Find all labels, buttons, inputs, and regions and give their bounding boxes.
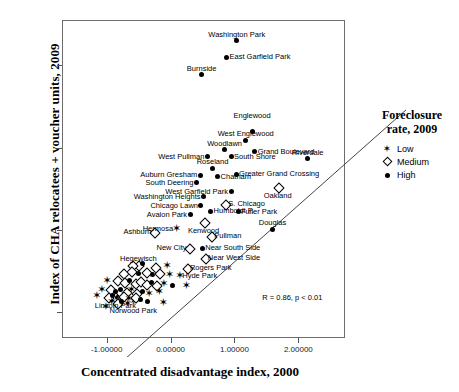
legend-title-line1: Foreclosure [366, 108, 458, 122]
legend-entry-low: ✶Low [380, 142, 458, 155]
data-point-high [145, 299, 150, 304]
data-point-high [200, 246, 205, 251]
y-axis-title: Index of CHA relocatees + voucher units,… [47, 24, 63, 324]
legend-items: ✶LowMediumHigh [366, 142, 458, 181]
point-label: Hegewisch [120, 254, 157, 263]
point-label: Chicago Lawn [150, 201, 198, 210]
data-point-low: ✶ [172, 223, 180, 234]
point-label: Woodlawn [207, 139, 242, 148]
point-label: Ashburn [123, 227, 151, 236]
data-point-low: ✶ [92, 290, 100, 301]
legend: Foreclosure rate, 2009 ✶LowMediumHigh [366, 108, 458, 181]
data-point-low: ✶ [159, 297, 167, 308]
data-point-high [208, 209, 213, 214]
point-label: Douglas [259, 218, 287, 227]
data-point-high [270, 227, 275, 232]
x-tick-mark [107, 338, 108, 343]
point-label: Norwood Park [110, 306, 158, 315]
point-label: Near West Side [208, 253, 260, 262]
legend-symbol-diamond-icon [380, 156, 394, 167]
point-label: Hyde Park [182, 271, 217, 280]
legend-label: Medium [394, 157, 429, 167]
data-point-high [198, 173, 203, 178]
legend-label: Low [394, 144, 414, 154]
point-label: Near South Side [205, 243, 260, 252]
point-label: Burnside [187, 64, 217, 73]
data-point-high [188, 212, 193, 217]
point-label: Roseland [197, 157, 229, 166]
point-label: Pullman [214, 231, 241, 240]
legend-entry-medium: Medium [380, 155, 458, 168]
legend-title-line2: rate, 2009 [366, 122, 458, 136]
data-point-high [210, 166, 215, 171]
legend-entry-high: High [380, 168, 458, 181]
point-label: Fuller Park [241, 207, 277, 216]
data-point-high [224, 55, 229, 60]
point-label: West Englewood [218, 129, 274, 138]
point-label: Washington Park [208, 30, 265, 39]
scatter-chart-figure: Index of CHA relocatees + voucher units,… [0, 0, 459, 392]
point-label: South Deering [146, 178, 194, 187]
point-label: Greater Grand Crossing [239, 169, 319, 178]
point-label: Oakland [264, 191, 292, 200]
correlation-annotation: R = 0.86, p < 0.01 [262, 293, 322, 302]
data-point-low: ✶ [145, 288, 153, 299]
data-point-high [229, 189, 234, 194]
point-label: Riverdale [292, 148, 324, 157]
legend-symbol-star-icon: ✶ [380, 143, 394, 154]
x-axis-title: Concentrated disadvantage index, 2000 [40, 364, 340, 380]
legend-symbol-circle-icon [380, 169, 394, 180]
point-label: South Shore [234, 152, 276, 161]
point-label: East Garfield Park [230, 52, 291, 61]
point-label: Englewood [234, 111, 271, 120]
data-point-low: ✶ [182, 280, 190, 291]
legend-label: High [394, 170, 416, 180]
plot-area: ✶✶✶✶✶✶✶✶✶✶✶✶✶✶✶✶✶✶ Washington ParkEast G… [62, 20, 345, 338]
point-label: Avalon Park [147, 210, 187, 219]
point-label: New City [156, 243, 186, 252]
point-label: Washington Heights [134, 192, 201, 201]
legend-title: Foreclosure rate, 2009 [366, 108, 458, 136]
